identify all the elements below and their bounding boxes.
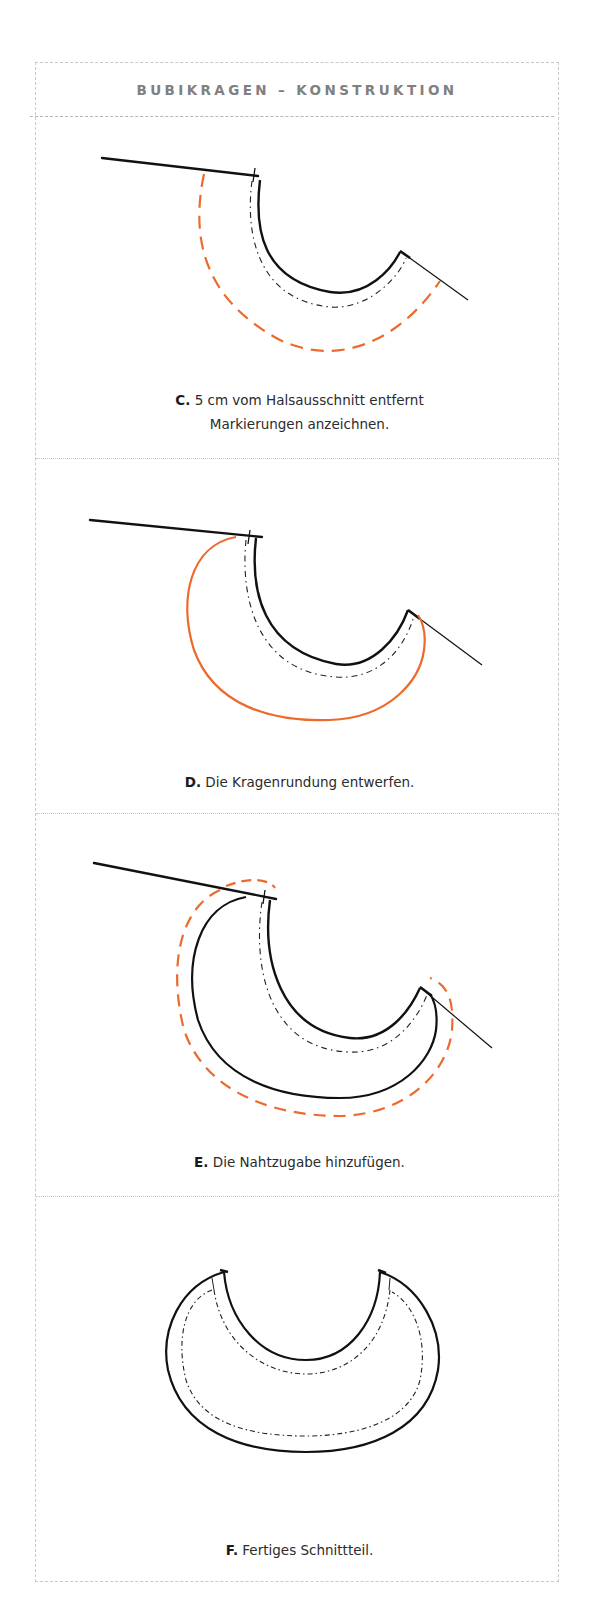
caption-step-f: F. Fertiges Schnittteil. [0, 1538, 599, 1562]
diagram-step-f [0, 0, 599, 1623]
caption-line: Fertiges Schnittteil. [242, 1542, 373, 1558]
step-letter: F. [226, 1542, 238, 1558]
